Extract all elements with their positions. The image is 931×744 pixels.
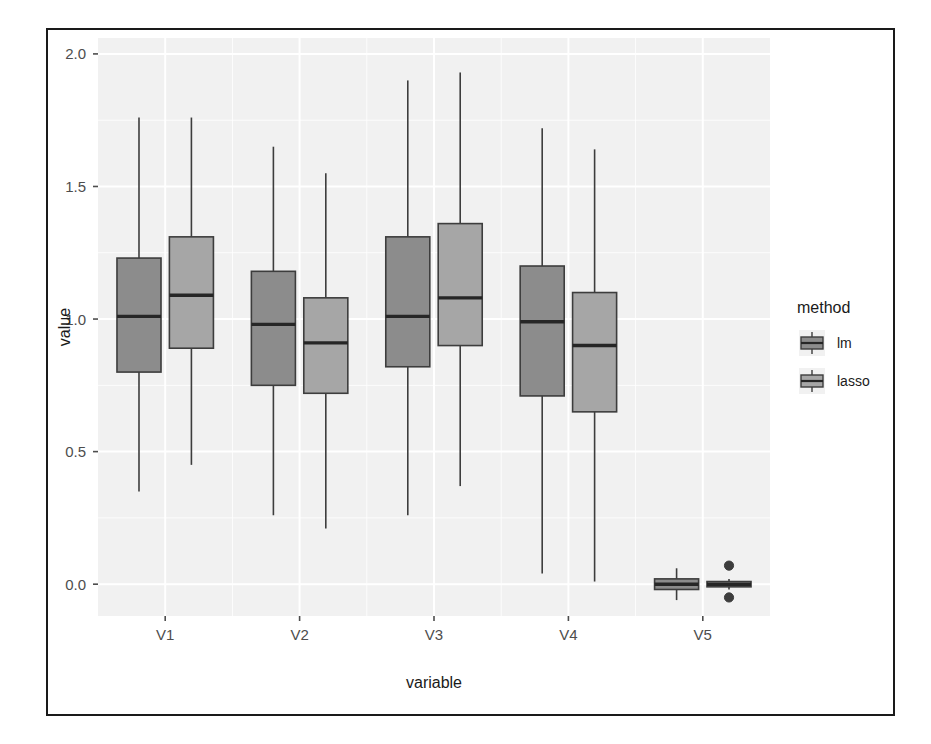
legend-items: lmlasso — [799, 330, 870, 394]
x-axis-tick-label: V4 — [559, 626, 577, 643]
box-iqr — [573, 293, 617, 412]
box-iqr — [169, 237, 213, 348]
x-axis-tick-label: V2 — [290, 626, 308, 643]
x-axis-title: variable — [406, 674, 462, 691]
box-iqr — [520, 266, 564, 396]
figure-root: 0.00.51.01.52.0 V1V2V3V4V5 variable valu… — [0, 0, 931, 744]
box-iqr — [251, 271, 295, 385]
legend: method lmlasso — [797, 299, 870, 394]
legend-item-label: lasso — [837, 373, 870, 389]
x-axis-tick-label: V5 — [694, 626, 712, 643]
y-axis-tick-label: 2.0 — [65, 45, 86, 62]
y-axis-title: value — [56, 308, 73, 346]
y-axis-tick-label: 0.0 — [65, 576, 86, 593]
boxplot-chart: 0.00.51.01.52.0 V1V2V3V4V5 variable valu… — [0, 0, 931, 744]
legend-item-lasso[interactable]: lasso — [799, 368, 870, 394]
box-iqr — [438, 224, 482, 346]
x-axis: V1V2V3V4V5 — [156, 616, 712, 643]
y-axis-tick-label: 1.5 — [65, 178, 86, 195]
x-axis-tick-label: V3 — [425, 626, 443, 643]
legend-item-lm[interactable]: lm — [799, 330, 852, 356]
legend-item-label: lm — [837, 335, 852, 351]
outlier-point — [724, 561, 733, 570]
box-iqr — [386, 237, 430, 367]
box-iqr — [304, 298, 348, 393]
y-axis-tick-label: 0.5 — [65, 443, 86, 460]
outlier-point — [724, 593, 733, 602]
legend-title: method — [797, 299, 850, 316]
x-axis-tick-label: V1 — [156, 626, 174, 643]
